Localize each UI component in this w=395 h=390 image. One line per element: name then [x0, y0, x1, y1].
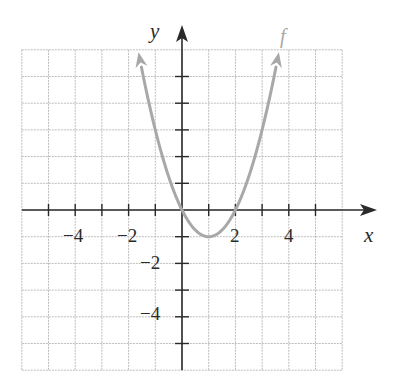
x-tick-label-2: 2 — [230, 226, 240, 245]
x-tick-label-4: 4 — [284, 226, 294, 245]
coordinate-plane — [0, 0, 395, 390]
y-axis-label: y — [150, 21, 159, 42]
y-tick-label-neg2: −2 — [140, 253, 160, 272]
x-tick-label-neg4: −4 — [63, 226, 83, 245]
x-axis-label: x — [364, 225, 373, 246]
y-tick-label-neg4: −4 — [140, 304, 160, 323]
x-tick-label-neg2: −2 — [117, 226, 137, 245]
curve-label-f: f — [280, 26, 286, 46]
